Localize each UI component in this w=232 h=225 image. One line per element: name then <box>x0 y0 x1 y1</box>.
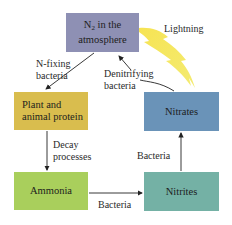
edge-label-lightning: Lightning <box>164 23 203 35</box>
denitrifying-line2: bacteria <box>104 80 136 91</box>
plant-label-line2: animal protein <box>22 111 83 122</box>
edge-label-denitrifying: Denitrifying bacteria <box>104 68 153 92</box>
edge-label-bacteria-nitrites: Bacteria <box>137 150 170 162</box>
n-fixing-line1: N-fixing <box>36 58 70 69</box>
edge-label-n-fixing: N-fixing bacteria <box>36 58 70 82</box>
decay-line1: Decay <box>53 139 79 150</box>
nitrites-label: Nitrites <box>166 186 198 198</box>
bacteria-label-horizontal: Bacteria <box>98 199 131 210</box>
nitrates-label: Nitrates <box>165 106 198 118</box>
node-nitrates: Nitrates <box>144 92 219 131</box>
bacteria-label-vertical: Bacteria <box>137 150 170 161</box>
plant-label-line1: Plant and <box>22 99 61 110</box>
ammonia-label: Ammonia <box>30 185 72 197</box>
node-nitrites: Nitrites <box>144 172 219 211</box>
decay-line2: processes <box>53 151 91 162</box>
node-plant-animal-protein: Plant and animal protein <box>14 92 88 130</box>
lightning-label: Lightning <box>164 23 203 34</box>
node-ammonia: Ammonia <box>14 172 88 210</box>
edge-label-bacteria-ammonia: Bacteria <box>98 199 131 211</box>
n-fixing-line2: bacteria <box>36 70 68 81</box>
n2-label-rest: in the <box>95 19 121 30</box>
n2-label-line2: atmosphere <box>78 34 126 45</box>
denitrifying-line1: Denitrifying <box>104 68 153 79</box>
edge-label-decay: Decay processes <box>53 139 91 163</box>
node-n2-atmosphere: N2 in the atmosphere <box>66 13 139 52</box>
